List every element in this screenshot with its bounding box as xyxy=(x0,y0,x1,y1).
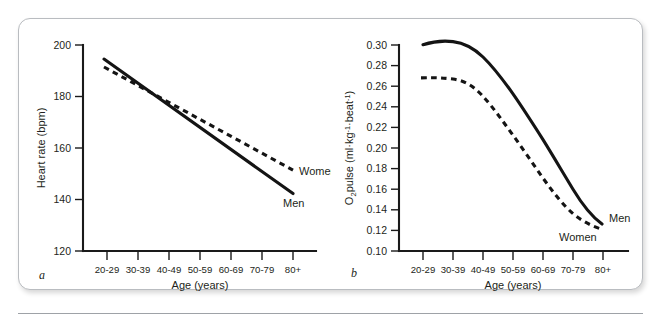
panel-b-letter: b xyxy=(351,266,357,280)
panel-a-x-axis-title: Age (years) xyxy=(172,279,229,291)
x-tick-label: 50-59 xyxy=(501,264,526,275)
panel-a-y-axis-title: Heart rate (bpm) xyxy=(35,108,47,189)
x-tick-label: 60-69 xyxy=(219,264,244,275)
y-tick-label: 0.28 xyxy=(367,59,388,71)
x-tick-label: 70-79 xyxy=(250,264,275,275)
x-tick-label: 60-69 xyxy=(531,264,556,275)
figure-card: 120 140 160 180 200 20-29 30-39 40-49 xyxy=(18,18,643,290)
y-tick-label: 0.14 xyxy=(367,203,388,215)
panel-b-y-ticks xyxy=(391,45,399,251)
chart-panel-a: 120 140 160 180 200 20-29 30-39 40-49 xyxy=(19,19,331,291)
panel-a-svg: 120 140 160 180 200 20-29 30-39 40-49 xyxy=(19,19,331,291)
panel-a-series-men xyxy=(104,59,293,194)
x-tick-label: 30-39 xyxy=(441,264,466,275)
panel-b-x-tick-labels: 20-29 30-39 40-49 50-59 60-69 70-79 80+ xyxy=(411,264,612,275)
y-tick-label: 0.16 xyxy=(367,183,388,195)
x-tick-label: 70-79 xyxy=(561,264,586,275)
y-tick-label: 140 xyxy=(53,193,71,205)
ylabel-tail: ) xyxy=(343,91,355,95)
x-tick-label: 30-39 xyxy=(126,264,151,275)
panel-a-letter: a xyxy=(39,268,45,282)
panel-b-series-women xyxy=(421,78,602,230)
panel-b-y-tick-labels: 0.10 0.12 0.14 0.16 0.18 0.20 0.22 0.24 … xyxy=(367,39,388,257)
y-tick-label: 160 xyxy=(53,142,71,154)
panel-b-x-ticks xyxy=(423,251,603,260)
x-tick-label: 40-49 xyxy=(157,264,182,275)
bottom-divider xyxy=(18,313,643,314)
x-tick-label: 20-29 xyxy=(411,264,436,275)
y-tick-label: 0.20 xyxy=(367,142,388,154)
ylabel-mid2: ·beat xyxy=(343,101,355,126)
panel-b-svg: 0.10 0.12 0.14 0.16 0.18 0.20 0.22 0.24 … xyxy=(331,19,643,291)
x-tick-label: 50-59 xyxy=(188,264,213,275)
y-tick-label: 0.12 xyxy=(367,224,388,236)
x-tick-label: 80+ xyxy=(595,264,612,275)
panel-b-y-axis-title: O2pulse (ml·kg-1·beat-1) xyxy=(343,91,358,205)
panel-a-x-tick-labels: 20-29 30-39 40-49 50-59 60-69 70-79 80+ xyxy=(95,264,302,275)
y-tick-label: 180 xyxy=(53,90,71,102)
panel-b-label-women: Women xyxy=(559,231,597,243)
x-tick-label: 40-49 xyxy=(471,264,496,275)
y-tick-label: 0.24 xyxy=(367,100,388,112)
panel-b-x-axis-title: Age (years) xyxy=(485,279,542,291)
y-tick-label: 200 xyxy=(53,39,71,51)
panel-a-series-women xyxy=(104,67,293,170)
x-tick-label: 20-29 xyxy=(95,264,120,275)
panel-b-label-men: Men xyxy=(609,212,630,224)
panel-a-label-women: Women xyxy=(299,165,331,177)
y-tick-label: 0.10 xyxy=(367,245,388,257)
panel-a-y-ticks xyxy=(75,45,83,251)
y-tick-label: 120 xyxy=(53,245,71,257)
y-tick-label: 0.26 xyxy=(367,80,388,92)
x-tick-label: 80+ xyxy=(285,264,302,275)
ylabel-mid: pulse (ml·kg xyxy=(343,132,355,192)
panel-a-label-men: Men xyxy=(283,197,304,209)
chart-panel-b: 0.10 0.12 0.14 0.16 0.18 0.20 0.22 0.24 … xyxy=(331,19,643,291)
y-tick-label: 0.30 xyxy=(367,39,388,51)
panel-a-y-tick-labels: 120 140 160 180 200 xyxy=(53,39,71,257)
y-tick-label: 0.22 xyxy=(367,121,388,133)
panel-a-x-ticks xyxy=(107,251,293,260)
y-tick-label: 0.18 xyxy=(367,162,388,174)
